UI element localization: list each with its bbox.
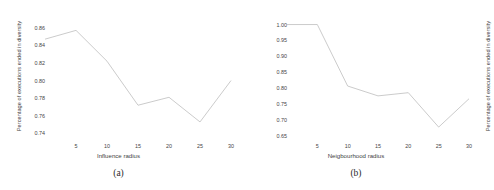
panel-caption-b: (b): [237, 166, 475, 180]
data-line-a: [0, 0, 237, 145]
panel-caption-a: (a): [0, 166, 237, 180]
data-line-b: [237, 0, 475, 145]
chart-panel-a: Percentage of executions ended in divers…: [0, 0, 237, 190]
x-axis-label-a: Influence radius: [0, 151, 237, 160]
y-axis-label-b: Percentage of executions ended in divers…: [483, 6, 494, 146]
plot-area-b: Percentage of executions ended in divers…: [237, 0, 475, 168]
plot-area-a: Percentage of executions ended in divers…: [0, 0, 237, 168]
x-axis-label-b: Neigbourhood radius: [237, 151, 475, 160]
chart-panel-b: Percentage of executions ended in divers…: [237, 0, 475, 190]
